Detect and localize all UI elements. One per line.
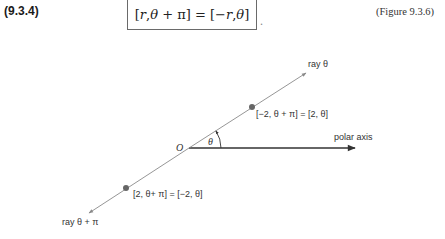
polar-diagram: O θ polar axis ray θ ray θ + π [−2, θ + … — [0, 0, 445, 239]
lower-point-marker — [123, 185, 129, 191]
ray-theta-plus-pi-line — [89, 148, 189, 213]
origin-label: O — [176, 142, 183, 153]
angle-label: θ — [208, 136, 213, 147]
polar-axis-label: polar axis — [334, 132, 373, 142]
upper-point-marker — [249, 104, 255, 110]
angle-arc-icon — [216, 131, 221, 148]
upper-point-label: [−2, θ + π] = [2, θ] — [256, 109, 328, 119]
lower-point-label: [2, θ+ π] = [−2, θ] — [133, 189, 203, 199]
ray-theta-plus-pi-label: ray θ + π — [62, 217, 98, 227]
ray-theta-label: ray θ — [308, 59, 328, 69]
